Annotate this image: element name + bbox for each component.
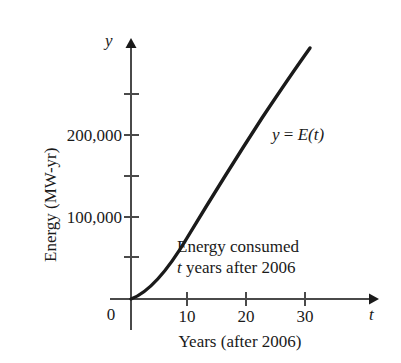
x-axis: [110, 294, 379, 305]
curve-label: y = E(t): [272, 126, 324, 143]
y-tick-label-200000: 200,000: [42, 127, 122, 144]
annotation-line-2: t years after 2006: [177, 258, 299, 279]
energy-consumption-chart: Energy (MW-yr) y 200,000 100,000 0 10 20…: [0, 0, 401, 363]
x-tick-label-20: 20: [231, 308, 261, 325]
curve-label-lhs: y: [272, 125, 280, 144]
x-tick-label-30: 30: [290, 308, 320, 325]
y-axis-variable-label: y: [105, 32, 113, 49]
annotation-line-1: Energy consumed: [177, 237, 299, 258]
x-tick-label-10: 10: [172, 308, 202, 325]
curve-label-rhs: E(t): [298, 125, 324, 144]
curve-label-equals: =: [284, 125, 294, 144]
x-axis-variable-label: t: [369, 306, 374, 323]
x-axis-title: Years (after 2006): [140, 333, 340, 350]
origin-label: 0: [100, 306, 122, 323]
y-tick-label-100000: 100,000: [42, 209, 122, 226]
chart-annotation: Energy consumed t years after 2006: [177, 237, 299, 278]
y-axis-title: Energy (MW-yr): [42, 148, 59, 262]
annotation-line-2-text: years after 2006: [182, 258, 296, 277]
y-axis: [126, 38, 137, 330]
